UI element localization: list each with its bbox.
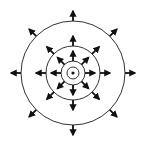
arrow-icon bbox=[57, 57, 64, 64]
arrow-icon bbox=[92, 47, 99, 54]
arrow-icon bbox=[110, 110, 117, 117]
center-point bbox=[71, 71, 74, 74]
arrow-icon bbox=[81, 57, 88, 64]
arrow-icon bbox=[47, 47, 54, 54]
arrow-icon bbox=[57, 81, 64, 88]
arrow-icon bbox=[47, 92, 54, 99]
arrow-icon bbox=[29, 110, 36, 117]
arrow-icon bbox=[29, 29, 36, 36]
arrow-icon bbox=[81, 81, 88, 88]
arrow-icon bbox=[110, 29, 117, 36]
radial-field-diagram bbox=[0, 0, 145, 145]
arrow-icon bbox=[92, 92, 99, 99]
